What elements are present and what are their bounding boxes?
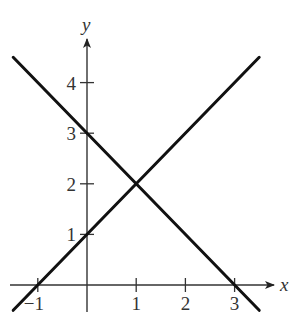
x-tick-label: 3: [230, 293, 240, 314]
x-ticks: −1123: [24, 278, 240, 314]
y-tick-label: 4: [67, 73, 77, 94]
x-tick-label: 2: [181, 293, 191, 314]
coordinate-plane: x y −1123 1234: [0, 0, 297, 320]
y-ticks: 1234: [67, 73, 95, 246]
plot-lines: [13, 57, 259, 310]
y-tick-label: 1: [67, 224, 77, 245]
x-tick-label: 1: [131, 293, 141, 314]
y-tick-label: 2: [67, 174, 77, 195]
y-axis-label: y: [80, 14, 91, 35]
x-axis-label: x: [279, 274, 289, 295]
y-tick-label: 3: [67, 123, 77, 144]
